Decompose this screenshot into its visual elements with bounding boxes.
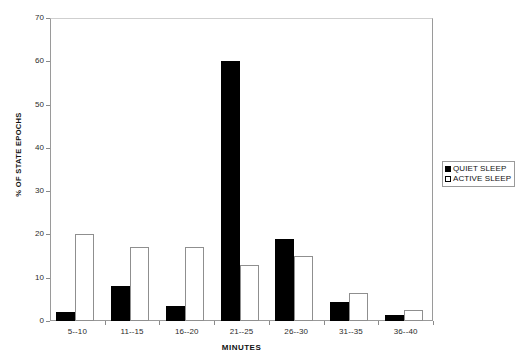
legend-label-quiet-sleep: QUIET SLEEP [453,164,506,174]
y-tick-mark [46,321,50,322]
bar-active-sleep [404,310,423,321]
bar-quiet-sleep [221,61,240,321]
y-tick-label: 20 [0,230,44,238]
x-tick-label: 26--30 [269,327,324,336]
bars-layer [50,18,433,321]
y-tick-label: 40 [0,144,44,152]
bar-active-sleep [294,256,313,321]
x-tick-label: 36--40 [378,327,433,336]
x-tick-label: 5--10 [50,327,105,336]
x-tick-label: 16--20 [159,327,214,336]
x-tick-mark [378,321,379,325]
y-tick-label: 10 [0,274,44,282]
legend-label-active-sleep: ACTIVE SLEEP [453,174,511,184]
x-tick-mark [105,321,106,325]
bar-quiet-sleep [111,286,130,321]
bar-quiet-sleep [385,315,404,321]
y-tick-label: 60 [0,57,44,65]
x-tick-label: 11--15 [105,327,160,336]
x-tick-mark [214,321,215,325]
bar-active-sleep [240,265,259,321]
filled-square-icon [445,166,451,172]
legend-item-active-sleep: ACTIVE SLEEP [445,174,511,184]
x-tick-mark [159,321,160,325]
bar-active-sleep [349,293,368,321]
x-tick-label: 31--35 [324,327,379,336]
y-axis-title: % OF STATE EPOCHS [14,75,23,235]
x-tick-mark [324,321,325,325]
legend-item-quiet-sleep: QUIET SLEEP [445,164,511,174]
x-axis-title: MINUTES [50,343,433,352]
bar-chart: % OF STATE EPOCHS 010203040506070 5--101… [0,0,521,363]
bar-quiet-sleep [275,239,294,321]
y-tick-label: 0 [0,317,44,325]
x-tick-mark [269,321,270,325]
x-tick-label: 21--25 [214,327,269,336]
open-square-icon [445,176,451,182]
bar-active-sleep [130,247,149,321]
bar-quiet-sleep [330,302,349,321]
x-tick-mark [433,321,434,325]
y-tick-label: 30 [0,187,44,195]
y-tick-label: 50 [0,101,44,109]
bar-quiet-sleep [56,312,75,321]
bar-active-sleep [185,247,204,321]
bar-active-sleep [75,234,94,321]
y-tick-label: 70 [0,14,44,22]
bar-quiet-sleep [166,306,185,321]
chart-legend: QUIET SLEEP ACTIVE SLEEP [442,161,515,187]
